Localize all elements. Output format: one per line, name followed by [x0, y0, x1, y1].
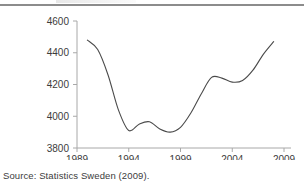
- y-tick-label: 4200: [47, 79, 70, 90]
- cropped-header-text: [56, 0, 136, 3]
- line-chart: 38004000420044004600 1989199419992004200…: [0, 8, 304, 160]
- chart-area: 38004000420044004600 1989199419992004200…: [0, 8, 304, 160]
- x-tick-label: 2009: [273, 154, 296, 160]
- x-axis-ticks: 19891994199920042009: [66, 148, 296, 160]
- y-axis-ticks: 38004000420044004600: [47, 16, 77, 154]
- figure-container: 38004000420044004600 1989199419992004200…: [0, 0, 304, 188]
- x-tick-label: 1989: [66, 154, 89, 160]
- y-tick-label: 4400: [47, 47, 70, 58]
- y-tick-label: 4600: [47, 16, 70, 27]
- y-tick-label: 3800: [47, 143, 70, 154]
- header-divider: [0, 4, 304, 6]
- x-tick-label: 1994: [118, 154, 141, 160]
- x-tick-label: 1999: [169, 154, 192, 160]
- y-tick-label: 4000: [47, 111, 70, 122]
- x-tick-label: 2004: [221, 154, 244, 160]
- data-series-line: [87, 40, 273, 132]
- source-note: Source: Statistics Sweden (2009).: [3, 170, 149, 182]
